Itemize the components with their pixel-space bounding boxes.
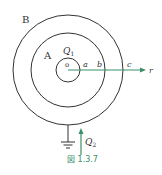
ground-symbol-icon	[61, 142, 75, 148]
figure-caption: 図 1.3.7	[67, 155, 98, 164]
label-a: a	[83, 60, 88, 69]
label-Q2: Q2	[85, 137, 96, 148]
label-r: r	[149, 66, 154, 75]
label-B: B	[22, 14, 29, 25]
label-c: c	[127, 60, 132, 69]
label-b: b	[97, 60, 102, 69]
radial-arrowhead-icon	[140, 68, 146, 73]
label-center-o: o	[65, 61, 69, 69]
label-Q1: Q1	[63, 46, 74, 57]
concentric-spheres-diagram: B A Q1 o a b c r Q2 図 1.3.7	[0, 0, 162, 175]
label-A: A	[43, 50, 52, 61]
charge-flow-arrowhead-icon	[79, 128, 84, 134]
